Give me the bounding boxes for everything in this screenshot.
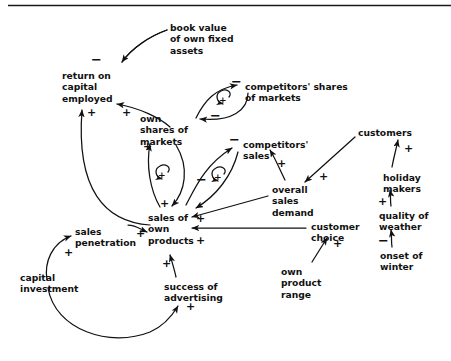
polarity-capital-to-advertising: + [186, 301, 195, 312]
polarity-sales-to-return-on-capital: + [87, 107, 96, 118]
polarity-holiday-makers-to-customers: + [404, 143, 413, 154]
link-book-value-to-return-on-capital [122, 30, 167, 62]
node-sales-of-own-products: sales of own products [148, 212, 194, 246]
node-onset-of-winter: onset of winter [380, 250, 422, 273]
node-return-on-capital-employed: return on capital employed [62, 70, 113, 104]
polarity-product-range-to-customer-choice: + [333, 238, 342, 249]
polarity-weather-to-holiday-makers: + [378, 196, 387, 207]
node-book-value: book value of own fixed assets [170, 22, 234, 56]
polarity-capital-to-penetration: + [64, 247, 73, 258]
node-competitors-sales: competitors' sales [243, 139, 308, 162]
node-overall-sales-demand: overall sales demand [272, 184, 314, 218]
link-own-shares-to-sales [172, 145, 184, 206]
polarity-sales-to-competitors-sales: − [229, 136, 240, 144]
node-own-product-range: own product range [281, 266, 321, 300]
polarity-overall-demand-to-competitors-sales: + [277, 158, 286, 169]
polarity-sales-to-own-shares: + [143, 141, 152, 152]
link-sales-to-competitors-sales [186, 148, 232, 205]
loop-sign-competitors-sales-sales: + [214, 173, 222, 182]
node-sales-penetration: sales penetration [75, 226, 136, 249]
polarity-competitors-shares-to-own-shares: − [210, 112, 221, 120]
node-holiday-makers: holiday makers [383, 172, 421, 195]
link-capital-investment-to-advertising [48, 288, 178, 338]
polarity-customer-choice-to-sales: + [196, 235, 205, 246]
polarity-competitors-sales-to-sales: − [196, 176, 207, 184]
polarity-own-shares-to-competitors-shares: − [231, 78, 242, 86]
arrow-book-value-to-return-on-capital [122, 30, 167, 62]
node-customers: customers [358, 127, 412, 138]
polarity-book-value-to-return-on-capital: − [91, 56, 102, 64]
loop-sign-own-competitors-shares: + [219, 96, 227, 105]
polarity-overall-demand-to-sales: + [196, 213, 205, 224]
diagram-canvas: book value of own fixed assets return on… [0, 0, 451, 361]
node-quality-of-weather: quality of weather [379, 210, 429, 233]
polarity-penetration-to-sales: + [136, 228, 145, 239]
polarity-own-shares-to-sales: + [160, 198, 169, 209]
polarity-winter-to-weather: − [378, 237, 389, 245]
node-capital-investment: capital investment [20, 272, 79, 295]
link-holiday-makers-to-customers [392, 140, 398, 167]
loop-sign-own-shares-sales: + [158, 171, 166, 180]
node-competitors-shares-of-markets: competitors' shares of markets [245, 81, 348, 104]
polarity-customers-to-overall-demand: + [319, 171, 328, 182]
polarity-advertising-to-sales: + [162, 258, 171, 269]
polarity-own-shares-to-return-on-capital: + [122, 107, 131, 118]
link-customers-to-overall-demand [305, 137, 355, 182]
